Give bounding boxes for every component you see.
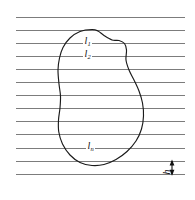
irregular-region-outline: [58, 29, 144, 165]
chord-label-l1: l1: [83, 36, 92, 46]
figure-container: l1 l2 ln h: [0, 0, 195, 200]
chord-label-ln: ln: [86, 141, 95, 151]
parallel-chord-lines-group: [16, 17, 185, 174]
spacing-label-h: h: [162, 170, 172, 175]
chord-label-l2: l2: [83, 49, 92, 59]
chord-label-l2-subscript: 2: [87, 53, 91, 60]
chord-label-ln-subscript: n: [90, 145, 94, 152]
dimension-arrow-top-icon: [170, 160, 175, 166]
chord-label-l1-subscript: 1: [87, 40, 91, 47]
